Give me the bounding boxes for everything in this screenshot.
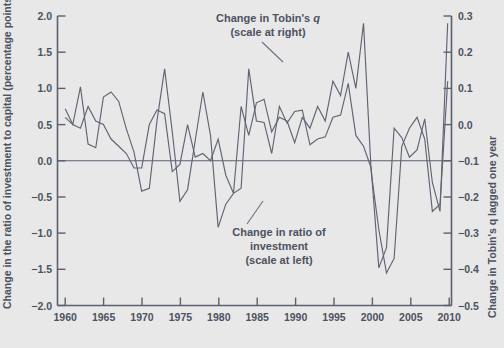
y-tick-label: 1.5 [37, 46, 52, 58]
y-tick-label: −2.0 [31, 300, 52, 312]
y2-tick-label: 0.1 [458, 82, 473, 94]
x-tick-label: 2010 [438, 311, 462, 323]
y-tick-label: −0.5 [31, 191, 52, 203]
x-tick-label: 1960 [54, 311, 78, 323]
x-axis-tick-labels: 1960 1965 1970 1975 1980 1985 1990 1995 … [54, 311, 462, 323]
y-tick-label: 2.0 [37, 10, 52, 22]
annot-inv-line3: (scale at left) [245, 254, 313, 266]
y-tick-label: −1.0 [31, 227, 52, 239]
x-tick-label: 1995 [322, 311, 346, 323]
annot-q-line1: Change in Tobin's q [216, 12, 320, 24]
x-tick-label: 2005 [399, 311, 423, 323]
y-axis-title: Change in the ratio of investment to cap… [1, 0, 13, 309]
x-tick-label: 1970 [130, 311, 154, 323]
annot-inv-line2: investment [250, 240, 308, 252]
y2-tick-label: −0.3 [458, 227, 479, 239]
y-tick-label: 0.0 [37, 155, 52, 167]
x-tick-label: 1980 [207, 311, 231, 323]
y2-axis-title: Change in Tobin's q lagged one year [486, 136, 498, 318]
y-tick-label: 1.0 [37, 82, 52, 94]
annot-q-line2: (scale at right) [230, 26, 306, 38]
y2-tick-label: −0.1 [458, 155, 479, 167]
y2-tick-label: −0.2 [458, 191, 479, 203]
x-tick-label: 1985 [246, 311, 270, 323]
x-tick-label: 1975 [169, 311, 193, 323]
y2-tick-label: 0.0 [458, 119, 473, 131]
x-tick-label: 1965 [92, 311, 116, 323]
x-tick-label: 2000 [361, 311, 385, 323]
y-tick-label: −1.5 [31, 263, 52, 275]
y2-tick-label: 0.2 [458, 46, 473, 58]
annot-inv-line1: Change in ratio of [232, 226, 326, 238]
x-tick-label: 1990 [284, 311, 308, 323]
chart-figure: Change in the ratio of investment to cap… [0, 0, 504, 348]
y2-tick-label: −0.4 [458, 263, 479, 275]
y2-tick-label: 0.3 [458, 10, 473, 22]
y-tick-label: 0.5 [37, 119, 52, 131]
y2-tick-label: −0.5 [458, 300, 479, 312]
chart-svg: Change in the ratio of investment to cap… [0, 0, 504, 348]
